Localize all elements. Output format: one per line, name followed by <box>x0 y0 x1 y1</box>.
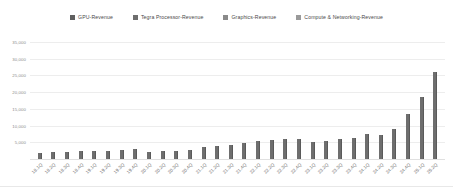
x-axis-tick-label: 19.1Q <box>85 162 98 175</box>
legend-swatch-icon <box>70 15 75 20</box>
bar-slot <box>169 42 183 159</box>
bottom-divider <box>0 186 453 187</box>
x-axis-tick-label: 22.2Q <box>262 162 275 175</box>
x-axis-tick-label: 20.2Q <box>153 162 166 175</box>
bar[interactable] <box>365 134 369 159</box>
bar-slot <box>47 42 61 159</box>
bar[interactable] <box>51 152 55 159</box>
bar[interactable] <box>270 140 274 159</box>
x-tick-slot: 22.4Q <box>292 160 306 192</box>
bar-slot <box>197 42 211 159</box>
x-tick-slot: 24.1Q <box>360 160 374 192</box>
x-tick-slot: 22.3Q <box>279 160 293 192</box>
y-axis-tick-label: 20,000 <box>12 90 26 95</box>
x-axis-tick-label: 25.2Q <box>426 162 439 175</box>
legend-item[interactable]: Compute & Networking-Revenue <box>296 14 383 20</box>
legend-item[interactable]: Graphics-Revenue <box>223 14 276 20</box>
legend-label: Tegra Processor-Revenue <box>141 14 204 20</box>
x-axis-tick-label: 22.1Q <box>249 162 262 175</box>
bar[interactable] <box>106 151 110 159</box>
x-tick-slot: 20.1Q <box>142 160 156 192</box>
x-tick-slot: 23.4Q <box>347 160 361 192</box>
legend-item[interactable]: GPU-Revenue <box>70 14 113 20</box>
bar-slot <box>88 42 102 159</box>
bar[interactable] <box>283 139 287 159</box>
y-axis-tick-label: 15,000 <box>12 106 26 111</box>
bar[interactable] <box>324 141 328 159</box>
bar-slot <box>429 42 443 159</box>
x-axis: 18.1Q18.2Q18.3Q18.4Q19.1Q19.2Q19.3Q19.4Q… <box>30 160 445 192</box>
bar[interactable] <box>242 143 246 159</box>
bar[interactable] <box>297 139 301 159</box>
bar-slot <box>156 42 170 159</box>
bar[interactable] <box>256 141 260 159</box>
x-tick-slot: 25.1Q <box>415 160 429 192</box>
x-axis-tick-label: 21.4Q <box>235 162 248 175</box>
bar[interactable] <box>420 97 424 159</box>
bar[interactable] <box>147 152 151 159</box>
x-axis-tick-label: 24.4Q <box>399 162 412 175</box>
x-tick-slot: 19.1Q <box>88 160 102 192</box>
x-axis-tick-label: 19.2Q <box>99 162 112 175</box>
bar-series <box>30 42 445 159</box>
legend-item[interactable]: Tegra Processor-Revenue <box>133 14 204 20</box>
bar-slot <box>224 42 238 159</box>
bar[interactable] <box>338 139 342 159</box>
bar[interactable] <box>311 142 315 159</box>
chart-title <box>0 0 453 2</box>
x-axis-tick-label: 25.1Q <box>413 162 426 175</box>
bar[interactable] <box>392 129 396 159</box>
x-tick-slot: 18.4Q <box>74 160 88 192</box>
bar-slot <box>360 42 374 159</box>
x-axis-tick-label: 23.4Q <box>344 162 357 175</box>
x-axis-tick-label: 19.3Q <box>112 162 125 175</box>
bar-slot <box>210 42 224 159</box>
x-axis-tick-label: 18.3Q <box>58 162 71 175</box>
bar[interactable] <box>352 138 356 159</box>
bar[interactable] <box>65 152 69 159</box>
x-tick-slot: 20.2Q <box>156 160 170 192</box>
chart-legend: GPU-RevenueTegra Processor-RevenueGraphi… <box>0 14 453 20</box>
x-axis-tick-label: 21.2Q <box>208 162 221 175</box>
bar-slot <box>183 42 197 159</box>
bar[interactable] <box>433 72 437 159</box>
bar-slot <box>306 42 320 159</box>
bar-slot <box>142 42 156 159</box>
bar[interactable] <box>133 149 137 159</box>
x-tick-slot: 19.4Q <box>128 160 142 192</box>
y-axis: 35,00030,00025,00020,00015,00010,0005,00… <box>0 42 28 159</box>
bar-slot <box>401 42 415 159</box>
bar[interactable] <box>92 151 96 159</box>
bar[interactable] <box>161 151 165 159</box>
y-axis-tick-label: 5,000 <box>15 140 26 145</box>
bar-slot <box>415 42 429 159</box>
y-axis-tick-label: 35,000 <box>12 40 26 45</box>
bar[interactable] <box>406 114 410 159</box>
plot-area <box>30 42 445 159</box>
bar[interactable] <box>174 151 178 159</box>
legend-label: Compute & Networking-Revenue <box>304 14 383 20</box>
bar[interactable] <box>188 150 192 159</box>
y-axis-tick-label: 10,000 <box>12 123 26 128</box>
bar-slot <box>251 42 265 159</box>
x-axis-tick-label: 23.3Q <box>331 162 344 175</box>
bar-slot <box>265 42 279 159</box>
bar[interactable] <box>120 150 124 159</box>
x-axis-tick-label: 20.1Q <box>140 162 153 175</box>
bar[interactable] <box>215 146 219 159</box>
bar[interactable] <box>79 151 83 159</box>
legend-label: Graphics-Revenue <box>231 14 276 20</box>
bar[interactable] <box>202 147 206 159</box>
bar[interactable] <box>379 135 383 159</box>
x-tick-slot: 20.4Q <box>183 160 197 192</box>
x-tick-slot: 21.4Q <box>238 160 252 192</box>
x-tick-slot: 21.3Q <box>224 160 238 192</box>
bar[interactable] <box>38 153 42 159</box>
x-tick-slot: 19.2Q <box>101 160 115 192</box>
x-axis-tick-label: 23.2Q <box>317 162 330 175</box>
x-tick-slot: 23.2Q <box>319 160 333 192</box>
bar[interactable] <box>229 145 233 159</box>
x-tick-slot: 19.3Q <box>115 160 129 192</box>
x-tick-slot: 22.1Q <box>251 160 265 192</box>
x-tick-slot: 18.1Q <box>33 160 47 192</box>
